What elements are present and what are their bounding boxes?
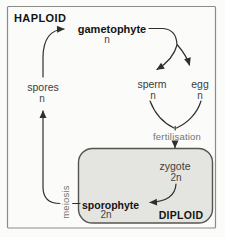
zygote-ploidy-label: 2n [170,173,181,183]
process-fertilisation-label: fertilisation [153,132,201,142]
line-gametophyte-to-fork [149,29,177,46]
arrow-fork-to-egg [178,45,190,65]
diploid-phase-label: DIPLOID [159,209,204,220]
node-zygote-label: zygote [160,161,191,172]
gametophyte-ploidy-label: n [104,35,110,45]
node-gametophyte-label: gametophyte [78,24,146,35]
node-spores-label: spores [27,82,59,93]
arrow-spores-to-gametophyte [43,29,64,77]
process-meiosis-label: meiosis [60,183,72,221]
node-sperm-label: sperm [137,79,166,90]
life-cycle-diagram: HAPLOID gametophyte n spores n sperm n e… [0,0,225,237]
sporophyte-ploidy-label: 2n [100,210,111,220]
arrow-fork-to-sperm [157,45,177,70]
egg-ploidy-label: n [197,91,203,101]
sperm-ploidy-label: n [150,91,156,101]
line-sperm-to-fertilisation [150,101,174,128]
node-egg-label: egg [191,79,209,90]
spores-ploidy-label: n [39,94,45,104]
line-egg-to-fertilisation [177,101,202,128]
haploid-phase-label: HAPLOID [14,12,66,24]
